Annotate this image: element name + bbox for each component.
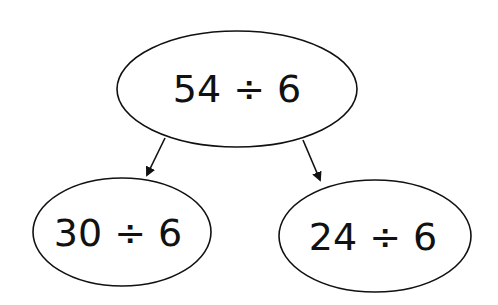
root-label: 54 ÷ 6	[173, 67, 302, 111]
arrow-to-left-child	[147, 138, 165, 175]
right-child-label: 24 ÷ 6	[309, 215, 438, 259]
diagram-canvas: 54 ÷ 6 30 ÷ 6 24 ÷ 6	[0, 0, 498, 305]
left-child-label: 30 ÷ 6	[54, 211, 183, 255]
right-child-node: 24 ÷ 6	[279, 180, 471, 292]
root-node: 54 ÷ 6	[117, 31, 357, 147]
left-child-node: 30 ÷ 6	[33, 178, 211, 286]
arrow-to-right-child	[303, 140, 320, 180]
